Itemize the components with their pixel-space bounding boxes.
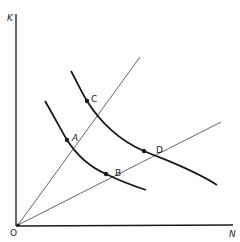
point-b-label: B xyxy=(115,169,121,178)
steep-ray xyxy=(18,57,140,225)
n-axis-label: N xyxy=(229,230,236,239)
point-a-marker xyxy=(65,138,69,142)
k-axis-label: K xyxy=(7,14,13,23)
point-c-marker xyxy=(85,99,89,103)
point-c-label: C xyxy=(91,95,97,104)
point-a-label: A xyxy=(72,134,78,143)
origin-label: O xyxy=(10,229,17,238)
point-d-marker xyxy=(142,149,146,153)
origin-marker xyxy=(16,223,19,226)
isoquant-diagram xyxy=(0,0,240,242)
point-b-marker xyxy=(104,172,108,176)
n-axis xyxy=(16,225,233,226)
point-d-label: D xyxy=(156,146,163,155)
